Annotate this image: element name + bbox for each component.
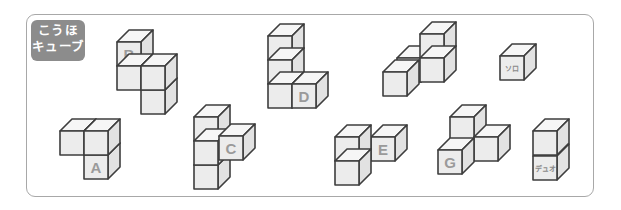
cube: ソロ [500,44,536,80]
cube-diagram: BADCFEGソロデュオ [0,0,621,210]
shape-A: A [60,119,120,179]
shape-label-G: G [444,154,456,171]
cube-front-face [194,165,218,189]
shape-label-D: D [299,88,310,105]
cube-front-face [84,131,108,155]
shape-B: B [117,30,177,114]
cube-front-face [383,72,407,96]
shape-label-duo: デュオ [535,164,556,173]
cube-front-face [420,58,444,82]
cube: E [371,125,407,161]
cube: G [438,138,474,174]
cube-front-face [335,161,359,185]
cube [383,60,419,96]
shape-label-A: A [91,159,102,176]
shape-C: C [194,105,255,189]
shape-F: F [383,22,456,96]
shape-label-E: E [378,141,388,158]
shape-label-solo: ソロ [505,65,519,73]
cube-front-face [117,66,141,90]
shape-D: D [268,24,328,108]
shape-label-C: C [226,140,237,157]
cube-front-face [194,141,218,165]
shape-duo: デュオ [533,119,569,180]
cube-front-face [474,137,498,161]
shape-E: E [335,125,407,185]
cube-front-face [141,90,165,114]
cube-front-face [533,131,557,155]
shape-solo: ソロ [500,44,536,80]
cube-front-face [60,131,84,155]
cube-front-face [141,66,165,90]
cube-front-face [268,84,292,108]
shape-G: G [438,105,510,174]
